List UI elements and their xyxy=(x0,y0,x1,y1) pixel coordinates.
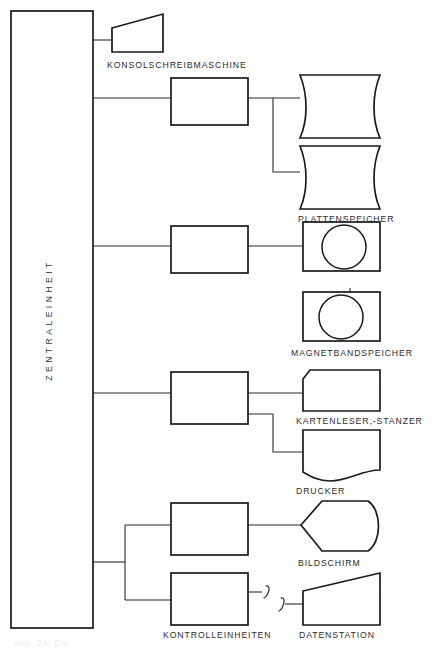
printer-shape[interactable] xyxy=(303,430,380,481)
console-typewriter-shape[interactable] xyxy=(112,14,163,52)
remote-link-break-icon xyxy=(264,586,284,611)
control-unit-1-group[interactable] xyxy=(171,503,248,555)
card-printer-controller-rect[interactable] xyxy=(171,372,248,424)
connector-card-controller-printer xyxy=(248,414,303,452)
data-station-label: DATENSTATION xyxy=(299,630,375,640)
disk-controller-group[interactable] xyxy=(171,78,248,125)
system-architecture-diagram: ZENTRALEINHEIT KONSOLSCHREIBMASCHINE PLA… xyxy=(0,0,441,648)
tape-controller-rect[interactable] xyxy=(171,226,248,273)
central-unit-block[interactable]: ZENTRALEINHEIT xyxy=(11,11,93,628)
control-unit-1-rect[interactable] xyxy=(171,503,248,555)
tape-storage-label: MAGNETBANDSPEICHER xyxy=(291,348,413,358)
diagram-canvas: ZENTRALEINHEIT KONSOLSCHREIBMASCHINE PLA… xyxy=(0,0,441,648)
figure-caption: Abb. 24: Ein xyxy=(14,638,69,648)
card-printer-controller-group[interactable] xyxy=(171,372,248,424)
disk-storage-group[interactable]: PLATTENSPEICHER xyxy=(298,75,394,224)
printer-label: DRUCKER xyxy=(296,486,345,496)
tape-reel-icon-2 xyxy=(319,295,363,339)
control-units-label: KONTROLLEINHEITEN xyxy=(163,630,271,640)
control-unit-2-rect[interactable] xyxy=(171,573,248,625)
tape-storage-group[interactable]: MAGNETBANDSPEICHER xyxy=(291,222,413,358)
tape-controller-group[interactable] xyxy=(171,226,248,273)
card-reader-punch-label: KARTENLESER,-STANZER xyxy=(296,416,423,426)
card-reader-punch-group[interactable]: KARTENLESER,-STANZER xyxy=(296,370,423,426)
disk-storage-unit-1[interactable] xyxy=(300,75,380,138)
disk-storage-unit-2[interactable] xyxy=(300,146,380,209)
console-typewriter-label: KONSOLSCHREIBMASCHINE xyxy=(107,60,247,70)
printer-group[interactable]: DRUCKER xyxy=(296,430,380,496)
data-station-shape[interactable] xyxy=(303,573,380,625)
data-station-group[interactable]: DATENSTATION xyxy=(299,573,380,640)
display-screen-group[interactable]: BILDSCHIRM xyxy=(298,501,379,568)
central-unit-label: ZENTRALEINHEIT xyxy=(44,259,54,380)
connector-disk-bus-drop xyxy=(273,98,300,172)
card-reader-punch-shape[interactable] xyxy=(303,370,380,411)
disk-controller-rect[interactable] xyxy=(171,78,248,125)
console-typewriter-group[interactable]: KONSOLSCHREIBMASCHINE xyxy=(107,14,247,70)
display-screen-shape[interactable] xyxy=(301,501,379,551)
display-screen-label: BILDSCHIRM xyxy=(298,558,361,568)
tape-reel-icon-1 xyxy=(322,225,366,269)
control-unit-2-group[interactable]: KONTROLLEINHEITEN xyxy=(163,573,271,640)
